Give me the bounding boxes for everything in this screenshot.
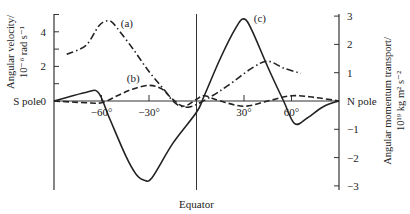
right-tick-label: −3 [347,180,359,192]
series-label: (c) [254,12,267,25]
chart: −60°−30°30°60°420321−1−2−3S poleN poleEq… [0,0,410,214]
right-tick-label: 2 [347,38,353,50]
left-tick-label: 0 [41,95,47,107]
x-tick-label: −30° [138,106,160,118]
right-y-axis-title-line1: Angular momentum transport/ [382,37,393,165]
right-tick-label: −1 [347,123,359,135]
right-tick-label: 1 [347,67,353,79]
left-tick-label: 4 [41,26,47,38]
series-label: (b) [127,72,140,85]
right-y-axis-title-line2: 10¹⁹ kg m² s⁻² [395,71,406,131]
x-tick-label: 30° [236,106,251,118]
right-tick-label: 3 [347,10,353,22]
left-tick-label: 2 [41,60,47,72]
left-y-axis-title-line2: 10⁻⁶ rad s⁻¹ [18,26,29,78]
series-label: (a) [121,17,134,30]
left-y-axis-title-line1: Angular velocity/ [5,15,16,89]
right-tick-label: −2 [347,152,359,164]
x-axis-label: Equator [179,198,214,210]
north-pole-label: N pole [347,95,377,107]
south-pole-label: S pole [13,95,41,107]
